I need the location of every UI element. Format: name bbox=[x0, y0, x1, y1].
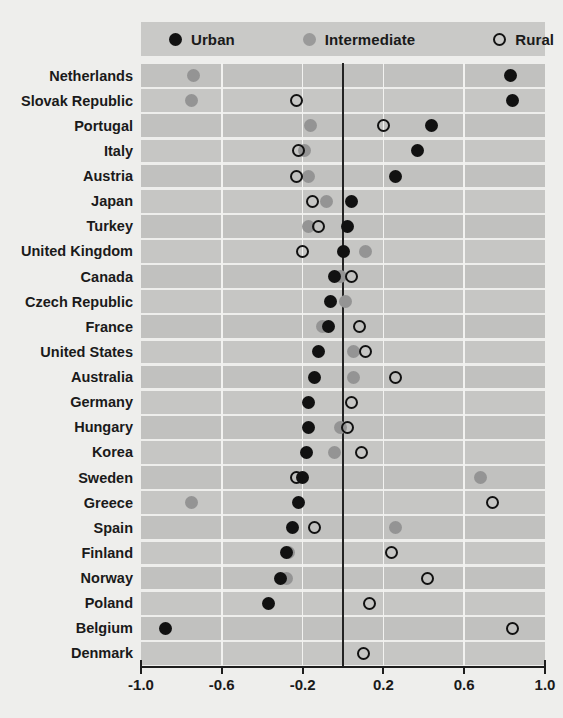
category-label: Spain bbox=[0, 521, 133, 536]
category-label: Turkey bbox=[0, 219, 133, 234]
data-point-urban bbox=[345, 195, 358, 208]
legend-label-urban: Urban bbox=[191, 31, 235, 48]
data-point-rural bbox=[290, 471, 303, 484]
data-point-rural bbox=[357, 647, 370, 660]
category-label: Slovak Republic bbox=[0, 94, 133, 109]
data-point-rural bbox=[345, 270, 358, 283]
category-label: Japan bbox=[0, 194, 133, 209]
data-point-rural bbox=[421, 572, 434, 585]
category-label: Hungary bbox=[0, 420, 133, 435]
data-point-rural bbox=[506, 622, 519, 635]
category-label: Norway bbox=[0, 571, 133, 586]
data-point-intermediate bbox=[339, 295, 352, 308]
data-point-rural bbox=[290, 170, 303, 183]
category-label: France bbox=[0, 320, 133, 335]
x-axis-tick-label: 1.0 bbox=[535, 676, 556, 693]
x-axis-tick bbox=[463, 666, 465, 674]
data-point-intermediate bbox=[474, 471, 487, 484]
legend-item-intermediate: Intermediate bbox=[303, 31, 415, 48]
axis-end-cap bbox=[544, 660, 546, 668]
category-label: Canada bbox=[0, 270, 133, 285]
category-label: Finland bbox=[0, 546, 133, 561]
data-point-rural bbox=[353, 320, 366, 333]
category-label: Portugal bbox=[0, 119, 133, 134]
x-axis-tick bbox=[382, 666, 384, 674]
legend-item-rural: Rural bbox=[493, 31, 554, 48]
data-point-rural bbox=[306, 195, 319, 208]
x-axis-line bbox=[141, 666, 545, 668]
dot-plot-chart: Urban Intermediate Rural NetherlandsSlov… bbox=[0, 0, 563, 718]
data-point-urban bbox=[308, 371, 321, 384]
plot-area bbox=[141, 63, 545, 666]
x-axis-tick-label: -0.6 bbox=[209, 676, 235, 693]
x-axis-tick-label: 0.6 bbox=[454, 676, 475, 693]
legend-label-rural: Rural bbox=[515, 31, 554, 48]
data-point-intermediate bbox=[302, 170, 315, 183]
category-label: Austria bbox=[0, 169, 133, 184]
x-axis-tick bbox=[221, 666, 223, 674]
x-axis-tick bbox=[302, 666, 304, 674]
data-point-rural bbox=[355, 446, 368, 459]
data-point-intermediate bbox=[347, 371, 360, 384]
filled-gray-circle-icon bbox=[303, 33, 316, 46]
category-label: Italy bbox=[0, 144, 133, 159]
axis-end-cap bbox=[140, 660, 142, 668]
data-point-urban bbox=[159, 622, 172, 635]
data-point-urban bbox=[300, 446, 313, 459]
category-axis-labels: NetherlandsSlovak RepublicPortugalItalyA… bbox=[0, 63, 133, 666]
data-point-urban bbox=[262, 597, 275, 610]
category-label: Korea bbox=[0, 445, 133, 460]
open-circle-icon bbox=[493, 33, 506, 46]
data-point-urban bbox=[302, 421, 315, 434]
legend-label-intermediate: Intermediate bbox=[325, 31, 415, 48]
data-point-intermediate bbox=[320, 195, 333, 208]
data-point-urban bbox=[389, 170, 402, 183]
data-point-rural bbox=[312, 220, 325, 233]
data-point-rural bbox=[296, 245, 309, 258]
vertical-gridline bbox=[221, 63, 223, 666]
category-label: United Kingdom bbox=[0, 244, 133, 259]
category-label: Greece bbox=[0, 496, 133, 511]
category-label: Belgium bbox=[0, 621, 133, 636]
category-label: United States bbox=[0, 345, 133, 360]
data-point-urban bbox=[274, 572, 287, 585]
data-point-rural bbox=[389, 371, 402, 384]
category-label: Australia bbox=[0, 370, 133, 385]
category-label: Sweden bbox=[0, 471, 133, 486]
data-point-rural bbox=[345, 396, 358, 409]
data-point-rural bbox=[363, 597, 376, 610]
category-label: Germany bbox=[0, 395, 133, 410]
category-label: Czech Republic bbox=[0, 295, 133, 310]
zero-reference-line bbox=[342, 63, 344, 666]
vertical-gridline bbox=[383, 63, 385, 666]
data-point-rural bbox=[341, 421, 354, 434]
data-point-urban bbox=[302, 396, 315, 409]
data-point-intermediate bbox=[187, 69, 200, 82]
category-label: Denmark bbox=[0, 646, 133, 661]
data-point-urban bbox=[337, 245, 350, 258]
x-axis-tick-label: 0.2 bbox=[373, 676, 394, 693]
data-point-urban bbox=[341, 220, 354, 233]
vertical-gridline bbox=[463, 63, 465, 666]
category-label: Poland bbox=[0, 596, 133, 611]
data-point-intermediate bbox=[347, 345, 360, 358]
filled-black-circle-icon bbox=[169, 33, 182, 46]
x-axis-tick-label: -1.0 bbox=[128, 676, 154, 693]
chart-legend: Urban Intermediate Rural bbox=[141, 22, 545, 56]
data-point-intermediate bbox=[359, 245, 372, 258]
x-axis-tick-label: -0.2 bbox=[290, 676, 316, 693]
legend-item-urban: Urban bbox=[169, 31, 235, 48]
category-label: Netherlands bbox=[0, 69, 133, 84]
